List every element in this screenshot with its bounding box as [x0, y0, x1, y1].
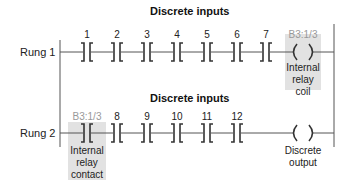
contact-address: B3:1/3: [67, 111, 107, 122]
contact-label: 3: [139, 29, 155, 40]
contact-label: 4: [169, 29, 185, 40]
contact-label: 10: [169, 111, 185, 122]
contact-label: 9: [139, 111, 155, 122]
contact-label: 7: [258, 29, 274, 40]
coil-address: B3:1/3: [283, 29, 323, 40]
contact-label: 8: [109, 111, 125, 122]
contact-label: 6: [229, 29, 245, 40]
discrete-output-caption: Discrete output: [278, 145, 328, 169]
rung-1-section-title: Discrete inputs: [150, 5, 229, 17]
internal-relay-coil-caption: Internal relay coil: [281, 62, 325, 98]
contact-label: 5: [199, 29, 215, 40]
rung-2-section-title: Discrete inputs: [150, 92, 229, 104]
rung-2-label: Rung 2: [20, 127, 55, 139]
coil-b3-1-3: [293, 44, 313, 60]
contact-label: 11: [199, 111, 215, 122]
discrete-output-coil: [293, 125, 313, 141]
rung-1-label: Rung 1: [20, 46, 55, 58]
internal-relay-contact-caption: Internal relay contact: [65, 145, 109, 181]
contact-label: 2: [109, 29, 125, 40]
contact-label: 1: [79, 29, 95, 40]
contact-label: 12: [229, 111, 245, 122]
